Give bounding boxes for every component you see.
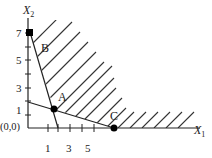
x-axis-label: X1 (193, 123, 205, 139)
x-tick-label-3: 3 (66, 142, 72, 154)
lp-diagram: X2 X1 7 5 3 1 (0,0) 1 3 5 B A C (0, 0, 212, 158)
vertex-a-marker (51, 106, 58, 113)
y-tick-label-1: 1 (16, 104, 22, 116)
y-tick-label-7: 7 (16, 27, 22, 39)
y-tick-label-3: 3 (16, 82, 22, 94)
y-tick-label-5: 5 (16, 54, 22, 66)
constraint-line-shallow (28, 102, 114, 128)
origin-label: (0,0) (0, 121, 21, 133)
point-label-b: B (41, 41, 49, 55)
x-tick-label-5: 5 (85, 142, 91, 154)
y-axis-label: X2 (22, 3, 34, 19)
point-label-a: A (58, 90, 67, 104)
x-tick-label-1: 1 (45, 142, 51, 154)
point-label-c: C (110, 109, 118, 123)
vertex-b-marker (26, 29, 33, 36)
vertex-c-marker (111, 125, 118, 132)
